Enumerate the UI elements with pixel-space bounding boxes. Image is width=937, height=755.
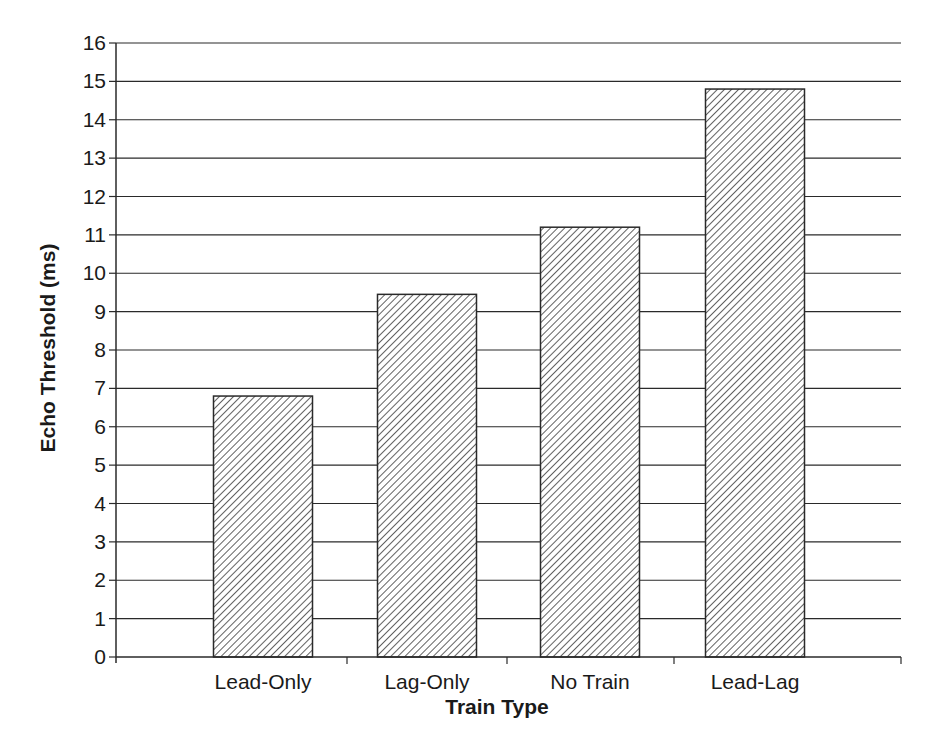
y-tick-label: 5 bbox=[94, 453, 106, 476]
y-tick-label: 14 bbox=[83, 108, 107, 131]
y-tick-label: 15 bbox=[83, 69, 106, 92]
y-tick-label: 0 bbox=[94, 645, 106, 668]
y-tick-label: 11 bbox=[84, 223, 106, 246]
bar-lead-only bbox=[214, 396, 313, 657]
bar-lead-lag bbox=[706, 89, 805, 657]
y-tick-label: 3 bbox=[94, 530, 106, 553]
y-tick-label: 16 bbox=[83, 31, 106, 54]
y-tick-label: 12 bbox=[83, 185, 106, 208]
y-tick-label: 9 bbox=[94, 300, 106, 323]
x-category-labels: Lead-OnlyLag-OnlyNo TrainLead-Lag bbox=[215, 670, 800, 693]
bars bbox=[214, 89, 805, 657]
y-tick-label: 1 bbox=[94, 607, 106, 630]
y-axis-title: Echo Threshold (ms) bbox=[36, 244, 59, 453]
bar-lag-only bbox=[378, 294, 477, 657]
x-category-label: Lead-Only bbox=[215, 670, 312, 693]
x-category-label: Lag-Only bbox=[384, 670, 470, 693]
bar-no-train bbox=[541, 227, 640, 657]
x-category-label: No Train bbox=[550, 670, 629, 693]
y-tick-label: 8 bbox=[94, 338, 106, 361]
y-tick-label: 13 bbox=[83, 146, 106, 169]
y-tick-labels: 012345678910111213141516 bbox=[83, 31, 107, 668]
x-axis-title: Train Type bbox=[445, 695, 548, 718]
bar-chart: 012345678910111213141516 Lead-OnlyLag-On… bbox=[0, 0, 937, 755]
y-tick-label: 2 bbox=[94, 568, 106, 591]
y-tick-label: 10 bbox=[83, 261, 106, 284]
y-tick-label: 4 bbox=[94, 492, 106, 515]
x-category-label: Lead-Lag bbox=[711, 670, 800, 693]
y-tick-label: 6 bbox=[94, 415, 106, 438]
y-tick-label: 7 bbox=[94, 376, 106, 399]
